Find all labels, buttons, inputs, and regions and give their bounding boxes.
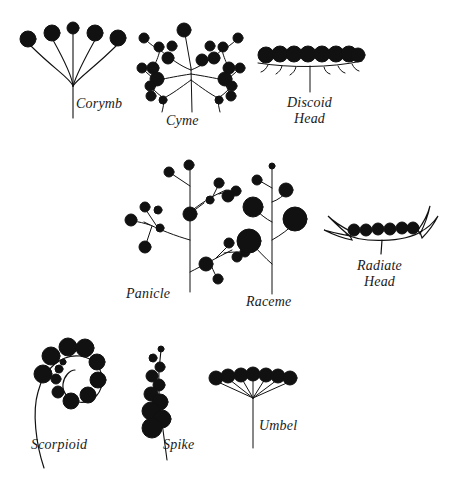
label-panicle: Panicle xyxy=(126,286,170,302)
umbel-stems xyxy=(218,378,289,448)
discoid-head-receptacle xyxy=(258,61,362,92)
panicle-stems xyxy=(134,168,242,292)
spike-flowers xyxy=(142,346,171,438)
label-cyme: Cyme xyxy=(166,113,199,129)
diagram-radiate-head xyxy=(324,206,438,254)
label-radiate-head: Radiate Head xyxy=(357,258,402,290)
scorpioid-flowers xyxy=(34,338,106,409)
diagram-cyme xyxy=(137,23,245,112)
diagram-panicle xyxy=(125,160,250,292)
label-raceme: Raceme xyxy=(246,294,292,310)
cyme-flowers xyxy=(137,23,245,104)
diagram-umbel xyxy=(209,367,297,448)
inflorescence-drawing xyxy=(0,0,459,477)
label-scorpioid: Scorpioid xyxy=(31,437,87,453)
discoid-head-florets xyxy=(258,46,365,63)
diagram-discoid-head xyxy=(258,46,365,92)
label-umbel: Umbel xyxy=(259,418,297,434)
diagram-raceme xyxy=(237,163,307,294)
label-discoid-head: Discoid Head xyxy=(287,95,332,127)
radiate-head-disc-florets xyxy=(348,222,419,236)
inflorescence-figure: Corymb Cyme Discoid Head Panicle Raceme … xyxy=(0,0,459,477)
radiate-head-ray-florets xyxy=(324,206,438,240)
label-corymb: Corymb xyxy=(76,96,122,112)
label-spike: Spike xyxy=(163,437,194,453)
